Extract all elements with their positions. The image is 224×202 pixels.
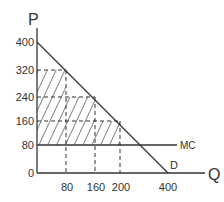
price-quantity-chart: P Q 400 320 240 160 80 0 80 160 200 400 …	[0, 0, 224, 202]
x-tick-160: 160	[87, 181, 105, 193]
y-tick-320: 320	[16, 64, 34, 76]
p-axis-label: P	[28, 11, 39, 28]
hatched-surplus-area	[37, 70, 120, 145]
x-tick-200: 200	[112, 181, 130, 193]
mc-label: MC	[180, 140, 196, 151]
y-tick-400: 400	[16, 36, 34, 48]
origin-label: 0	[28, 167, 34, 179]
x-tick-80: 80	[61, 181, 73, 193]
y-tick-80: 80	[22, 139, 34, 151]
q-axis-label: Q	[208, 166, 220, 183]
y-tick-160: 160	[16, 115, 34, 127]
d-label: D	[170, 159, 178, 171]
y-tick-240: 240	[16, 91, 34, 103]
x-tick-400: 400	[159, 181, 177, 193]
